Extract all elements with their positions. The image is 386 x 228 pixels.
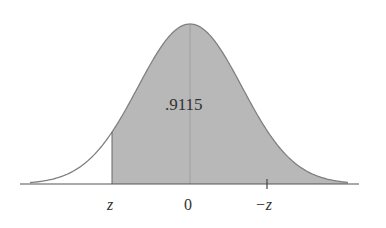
shaded-area	[112, 24, 348, 184]
neg-z-tick-label: −z	[255, 196, 273, 213]
z-tick-label: z	[106, 196, 114, 213]
zero-tick-label: 0	[184, 196, 192, 213]
area-label: .9115	[165, 95, 203, 114]
normal-curve-chart: .9115 z 0 −z	[0, 0, 386, 228]
